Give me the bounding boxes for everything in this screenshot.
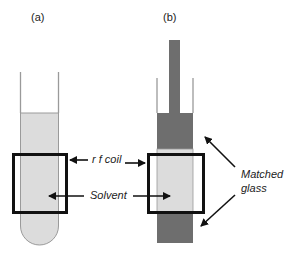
matched-glass-lower: [157, 213, 193, 243]
matched-glass-arrow-down: [201, 195, 235, 226]
panel-a-label: (a): [31, 11, 44, 23]
rf-coil-label: r f coil: [92, 153, 122, 165]
nmr-tube-diagram: (a) (b) r f coil Solvent Matched glass: [0, 0, 288, 253]
matched-glass-upper: [157, 113, 193, 149]
matched-glass-label-line2: glass: [241, 182, 267, 194]
matched-glass-label-line1: Matched: [241, 168, 284, 180]
solvent-label: Solvent: [90, 189, 128, 201]
solvent-a: [21, 113, 59, 245]
matched-glass-rod: [169, 40, 180, 114]
panel-b: (b): [149, 11, 204, 243]
solvent-b: [157, 149, 193, 213]
matched-glass-arrow-up: [205, 137, 235, 167]
panel-b-label: (b): [163, 11, 176, 23]
panel-a: (a): [14, 11, 67, 245]
